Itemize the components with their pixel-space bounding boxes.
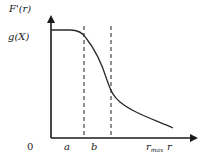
tick-label-b: b <box>91 141 97 152</box>
x-axis-label: r <box>167 141 173 152</box>
y-axis-label: F'(r) <box>8 3 31 14</box>
origin-label: 0 <box>27 141 33 152</box>
tick-label-rmax: rmax <box>146 141 164 153</box>
y-level-label: g(X) <box>8 31 29 42</box>
diagram-canvas: F'(r) g(X) 0 a b rmax r <box>0 0 207 159</box>
tick-label-a: a <box>64 141 70 152</box>
rmax-subscript: max <box>151 146 164 153</box>
curve-fprime <box>51 30 173 128</box>
